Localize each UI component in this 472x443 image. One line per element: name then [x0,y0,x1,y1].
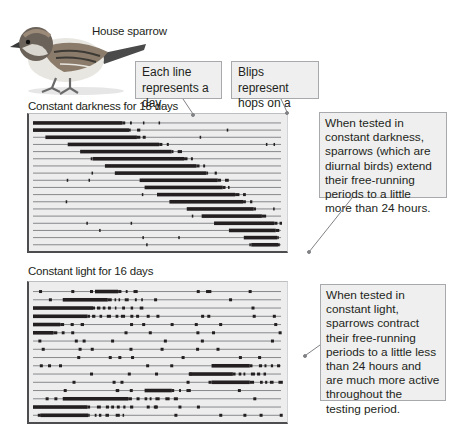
leader-lines [0,0,472,443]
